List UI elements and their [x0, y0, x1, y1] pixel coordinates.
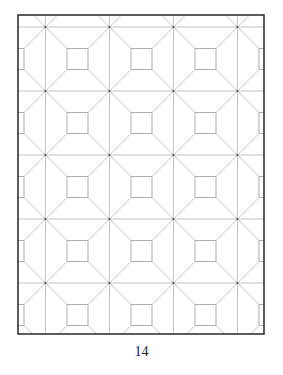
- octagon-diagonal: [280, 262, 283, 284]
- octagon-diagonal: [216, 70, 238, 92]
- octagon-diagonal: [0, 262, 3, 284]
- octagon-diagonal: [152, 27, 174, 49]
- octagon-diagonal: [88, 70, 110, 92]
- octagon-diagonal: [174, 326, 196, 341]
- octagon-diagonal: [110, 219, 132, 241]
- octagon-diagonal: [88, 262, 110, 284]
- octagon-diagonal: [152, 91, 174, 113]
- octagon-diagonal: [0, 70, 3, 92]
- octagon-diagonal: [110, 283, 132, 305]
- octagon-diagonal: [46, 283, 68, 305]
- octagon-diagonal: [24, 219, 46, 241]
- grid-node: [172, 26, 174, 28]
- octagon-diagonal: [110, 70, 132, 92]
- octagon-diagonal: [280, 155, 283, 177]
- octagon-diagonal: [0, 219, 3, 241]
- grid-node: [108, 282, 110, 284]
- octagon-diagonal: [174, 262, 196, 284]
- octagon-diagonal: [280, 326, 283, 341]
- octagon-diagonal: [110, 262, 132, 284]
- grid-node: [236, 218, 238, 220]
- octagon-diagonal: [0, 283, 3, 305]
- octagon-diagonal: [280, 283, 283, 305]
- small-square: [195, 113, 216, 134]
- octagon-diagonal: [88, 6, 110, 28]
- octagon-diagonal: [46, 134, 68, 156]
- octagon-diagonal: [152, 283, 174, 305]
- grid-node: [172, 154, 174, 156]
- octagon-diagonal: [110, 91, 132, 113]
- grid-node: [236, 90, 238, 92]
- octagon-diagonal: [238, 262, 260, 284]
- octagon-diagonal: [0, 27, 3, 49]
- octagon-diagonal: [216, 134, 238, 156]
- octagon-diagonal: [0, 198, 3, 220]
- small-square: [131, 241, 152, 262]
- octagon-diagonal: [216, 91, 238, 113]
- small-square: [3, 241, 24, 262]
- octagon-diagonal: [238, 198, 260, 220]
- octagon-diagonal: [24, 6, 46, 28]
- octagon-diagonal: [0, 134, 3, 156]
- octagon-diagonal: [238, 27, 260, 49]
- octagon-diagonal: [88, 326, 110, 341]
- octagon-diagonal: [174, 70, 196, 92]
- small-square: [131, 177, 152, 198]
- octagon-diagonal: [174, 283, 196, 305]
- octagon-diagonal: [216, 198, 238, 220]
- octagon-diagonal: [110, 27, 132, 49]
- quilt-pattern-figure: [0, 0, 283, 340]
- octagon-diagonal: [152, 6, 174, 28]
- octagon-diagonal: [88, 155, 110, 177]
- pattern-lines: [0, 0, 283, 340]
- octagon-diagonal: [238, 283, 260, 305]
- octagon-diagonal: [280, 27, 283, 49]
- octagon-diagonal: [216, 283, 238, 305]
- small-square: [131, 0, 152, 6]
- small-square: [259, 0, 280, 6]
- octagon-diagonal: [216, 6, 238, 28]
- small-square: [195, 177, 216, 198]
- grid-node: [172, 90, 174, 92]
- octagon-diagonal: [24, 198, 46, 220]
- small-square: [3, 177, 24, 198]
- octagon-diagonal: [174, 6, 196, 28]
- octagon-diagonal: [0, 6, 3, 28]
- grid-node: [44, 154, 46, 156]
- grid-node: [236, 26, 238, 28]
- small-square: [259, 241, 280, 262]
- small-square: [3, 305, 24, 326]
- octagon-diagonal: [174, 155, 196, 177]
- octagon-diagonal: [238, 91, 260, 113]
- grid-node: [44, 26, 46, 28]
- octagon-diagonal: [174, 134, 196, 156]
- small-square: [131, 305, 152, 326]
- octagon-diagonal: [280, 219, 283, 241]
- octagon-diagonal: [46, 219, 68, 241]
- octagon-diagonal: [46, 70, 68, 92]
- octagon-diagonal: [0, 155, 3, 177]
- small-square: [195, 0, 216, 6]
- octagon-diagonal: [216, 219, 238, 241]
- octagon-diagonal: [280, 91, 283, 113]
- octagon-diagonal: [24, 134, 46, 156]
- octagon-diagonal: [174, 219, 196, 241]
- small-square: [259, 113, 280, 134]
- octagon-diagonal: [88, 27, 110, 49]
- grid-node: [108, 90, 110, 92]
- octagon-diagonal: [152, 70, 174, 92]
- octagon-diagonal: [152, 134, 174, 156]
- octagon-diagonal: [152, 326, 174, 341]
- octagon-diagonal: [238, 70, 260, 92]
- octagon-diagonal: [46, 326, 68, 341]
- octagon-diagonal: [88, 198, 110, 220]
- octagon-diagonal: [174, 27, 196, 49]
- octagon-diagonal: [46, 6, 68, 28]
- octagon-diagonal: [238, 155, 260, 177]
- octagon-diagonal: [174, 198, 196, 220]
- octagon-diagonal: [46, 27, 68, 49]
- octagon-diagonal: [238, 326, 260, 341]
- octagon-diagonal: [238, 219, 260, 241]
- grid-node: [44, 218, 46, 220]
- octagon-diagonal: [88, 219, 110, 241]
